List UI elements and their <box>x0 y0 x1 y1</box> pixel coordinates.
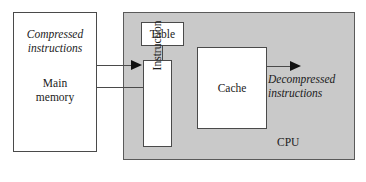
diagram-canvas: Compressed instructions Main memory CPU … <box>0 0 366 182</box>
decompressed-instructions-label: Decompressed instructions <box>268 73 358 100</box>
instruction-label: Instruction <box>143 2 172 89</box>
cache-label: Cache <box>218 82 247 94</box>
cache-to-output-arrow-line <box>267 66 292 67</box>
compressed-instructions-label: Compressed instructions <box>13 28 97 55</box>
memory-to-instruction-arrow-line <box>97 65 133 66</box>
cpu-label: CPU <box>277 136 299 148</box>
memory-to-instruction-arrowhead-icon <box>131 60 142 70</box>
compressed-instructions-line2: instructions <box>28 42 82 54</box>
cache-to-output-arrowhead-icon <box>290 61 301 71</box>
instruction-to-memory-line <box>97 87 144 88</box>
main-memory-line2: memory <box>36 91 74 103</box>
main-memory-label: Main memory <box>13 76 97 104</box>
compressed-instructions-line1: Compressed <box>27 28 83 40</box>
decompressed-instructions-line2: instructions <box>268 87 322 99</box>
main-memory-line1: Main <box>43 77 67 89</box>
cache-box: Cache <box>197 47 267 129</box>
decompressed-instructions-line1: Decompressed <box>268 73 335 85</box>
